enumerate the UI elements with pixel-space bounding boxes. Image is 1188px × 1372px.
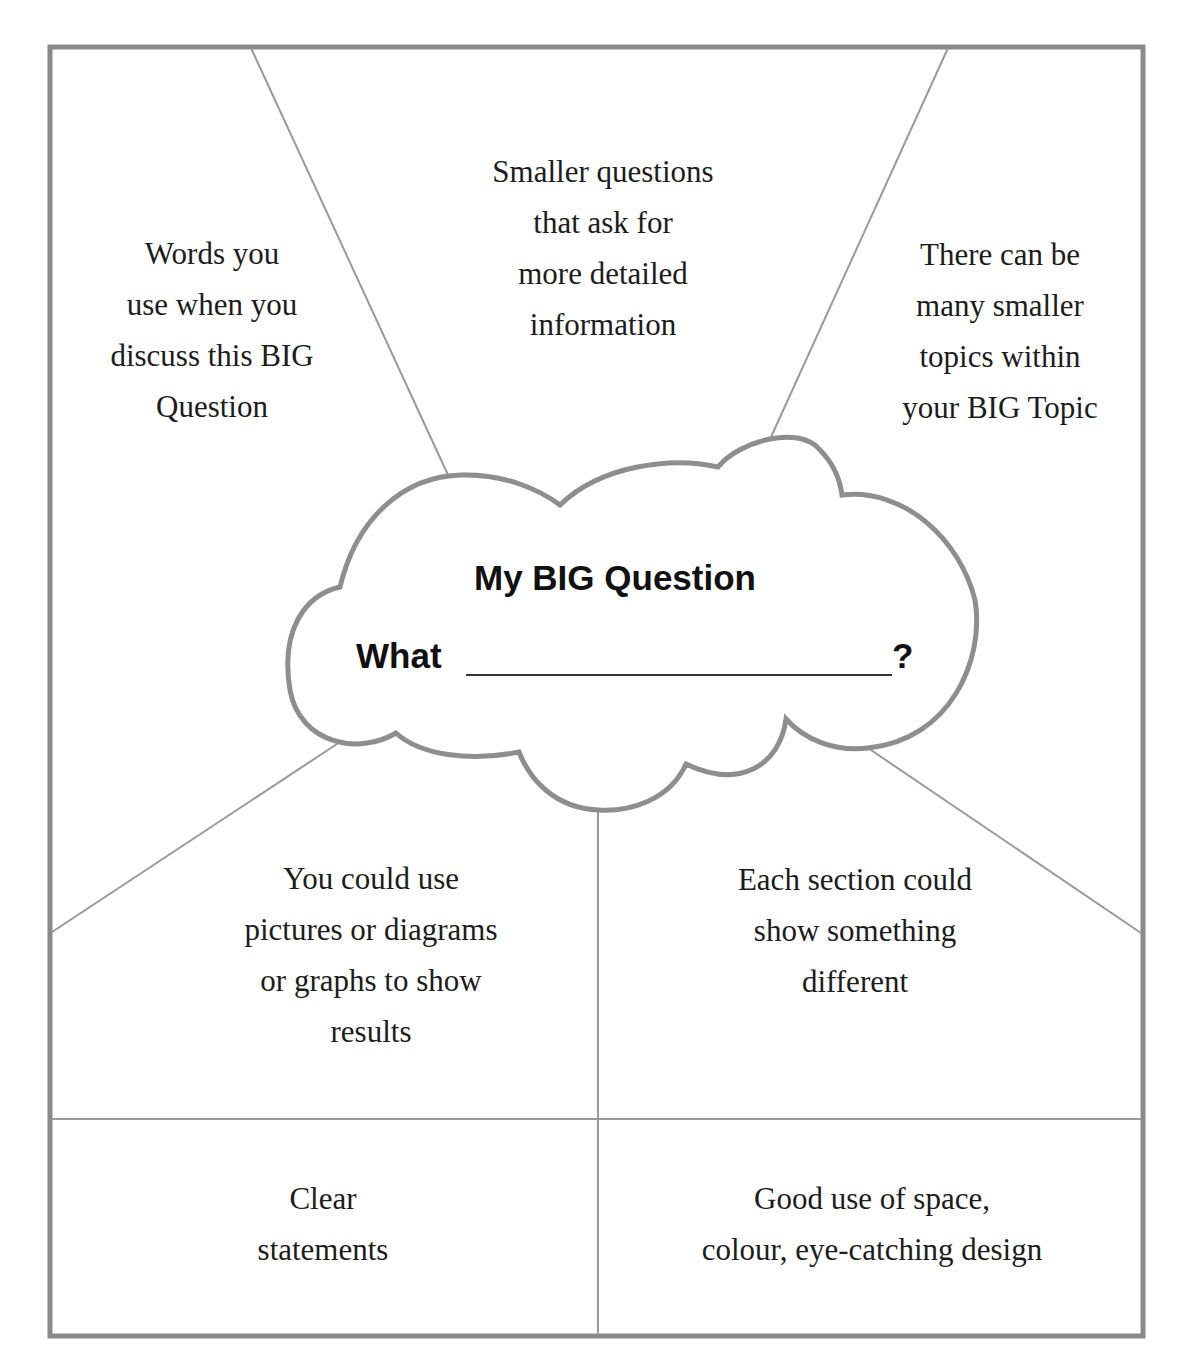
section-line: different — [690, 956, 1020, 1007]
section-line: Question — [72, 381, 352, 432]
section-line: topics within — [860, 331, 1140, 382]
section-line: Good use of space, — [662, 1173, 1082, 1224]
cloud-prompt-prefix: What — [356, 636, 442, 676]
section-middle-left: You could use pictures or diagrams or gr… — [196, 853, 546, 1057]
section-line: many smaller — [860, 280, 1140, 331]
section-line: You could use — [196, 853, 546, 904]
section-line: pictures or diagrams — [196, 904, 546, 955]
section-line: statements — [193, 1224, 453, 1275]
section-line: or graphs to show — [196, 955, 546, 1006]
section-line: information — [453, 299, 753, 350]
section-line: colour, eye-catching design — [662, 1224, 1082, 1275]
section-bottom-right: Good use of space, colour, eye-catching … — [662, 1173, 1082, 1275]
section-line: use when you — [72, 279, 352, 330]
section-line: that ask for — [453, 197, 753, 248]
cloud-prompt-suffix: ? — [892, 636, 913, 676]
section-line: show something — [690, 905, 1020, 956]
cloud-title: My BIG Question — [474, 558, 756, 598]
section-line: Clear — [193, 1173, 453, 1224]
section-bottom-left: Clear statements — [193, 1173, 453, 1275]
section-middle-right: Each section could show something differ… — [690, 854, 1020, 1007]
section-line: There can be — [860, 229, 1140, 280]
section-top-right: There can be many smaller topics within … — [860, 229, 1140, 433]
section-line: your BIG Topic — [860, 382, 1140, 433]
section-line: discuss this BIG — [72, 330, 352, 381]
cropped-header-remnant — [0, 0, 1188, 14]
section-line: results — [196, 1006, 546, 1057]
section-top-left: Words you use when you discuss this BIG … — [72, 228, 352, 432]
section-top-center: Smaller questions that ask for more deta… — [453, 146, 753, 350]
section-line: Each section could — [690, 854, 1020, 905]
section-line: Smaller questions — [453, 146, 753, 197]
question-blank-line[interactable] — [466, 674, 892, 676]
cloud-outline — [288, 437, 977, 810]
section-line: more detailed — [453, 248, 753, 299]
section-line: Words you — [72, 228, 352, 279]
